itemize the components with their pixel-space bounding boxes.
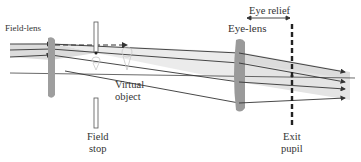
beam-shading	[10, 43, 350, 100]
field-stop-lower	[94, 98, 98, 128]
ray-diagram-svg	[0, 0, 361, 162]
eye-relief-label: Eye relief	[249, 5, 290, 17]
field-stop-upper	[94, 22, 98, 52]
field-stop-label-line1: Field	[87, 131, 109, 143]
exit-pupil-label: Exit pupil	[281, 131, 303, 155]
field-stop-label-line2: stop	[87, 143, 109, 155]
field-stop-label: Field stop	[87, 131, 109, 155]
virtual-object-label-line1: Virtual	[115, 79, 144, 91]
exit-pupil-label-line2: pupil	[281, 143, 303, 155]
field-lens	[48, 37, 55, 97]
eyepiece-diagram: Field-lens Eye-lens Eye relief Virtual o…	[0, 0, 361, 162]
exit-pupil-label-line1: Exit	[281, 131, 303, 143]
field-lens-label: Field-lens	[5, 23, 41, 33]
virtual-object-label: Virtual object	[115, 79, 144, 103]
virtual-object-label-line2: object	[115, 91, 144, 103]
eye-lens-label: Eye-lens	[228, 22, 266, 35]
eye-lens	[234, 39, 245, 112]
